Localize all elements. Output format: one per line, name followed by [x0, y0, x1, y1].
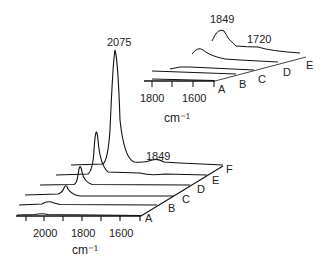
inset-peak-label: 1849: [210, 13, 234, 25]
main-peak-label: 2075: [107, 36, 131, 48]
inset-x-axis-label: cm⁻¹: [164, 111, 190, 125]
inset-series-b-trace: [152, 71, 236, 74]
inset-letter-b: B: [239, 78, 246, 90]
inset-letter-d: D: [283, 66, 291, 78]
series-d-trace: [40, 167, 190, 185]
main-letter-c: C: [182, 193, 190, 205]
main-tick-label-1800: 1800: [71, 227, 95, 239]
inset-letter-a: A: [218, 83, 226, 95]
main-letter-d: D: [197, 183, 205, 195]
series-b-trace: [19, 202, 157, 205]
main-shoulder-label: 1849: [146, 150, 170, 162]
main-depth-axis: [141, 166, 223, 216]
inset-x-ticks: [152, 81, 214, 87]
main-labels: 2075 1849 2000 1800 1600 cm⁻¹ A B C D E …: [33, 36, 233, 257]
series-c-trace: [25, 186, 174, 196]
main-letter-b: B: [168, 202, 175, 214]
inset-series-c-trace: [170, 67, 254, 70]
main-waterfall-plot: [16, 50, 223, 221]
inset-waterfall-plot: [144, 30, 306, 87]
inset-shoulder-label: 1720: [247, 33, 271, 45]
ir-spectra-figure: 2075 1849 2000 1800 1600 cm⁻¹ A B C D E …: [0, 0, 328, 266]
main-tick-label-2000: 2000: [33, 227, 57, 239]
main-letter-a: A: [145, 212, 153, 224]
main-letter-f: F: [226, 163, 233, 175]
inset-letter-c: C: [258, 73, 266, 85]
inset-tick-label-1600: 1600: [182, 92, 206, 104]
main-x-axis-label: cm⁻¹: [72, 243, 98, 257]
main-tick-label-1600: 1600: [109, 227, 133, 239]
main-letter-e: E: [212, 174, 219, 186]
inset-tick-label-1800: 1800: [140, 92, 164, 104]
inset-series-a-trace: [152, 79, 214, 81]
inset-series-d-trace: [192, 49, 278, 62]
inset-letter-e: E: [306, 59, 313, 71]
